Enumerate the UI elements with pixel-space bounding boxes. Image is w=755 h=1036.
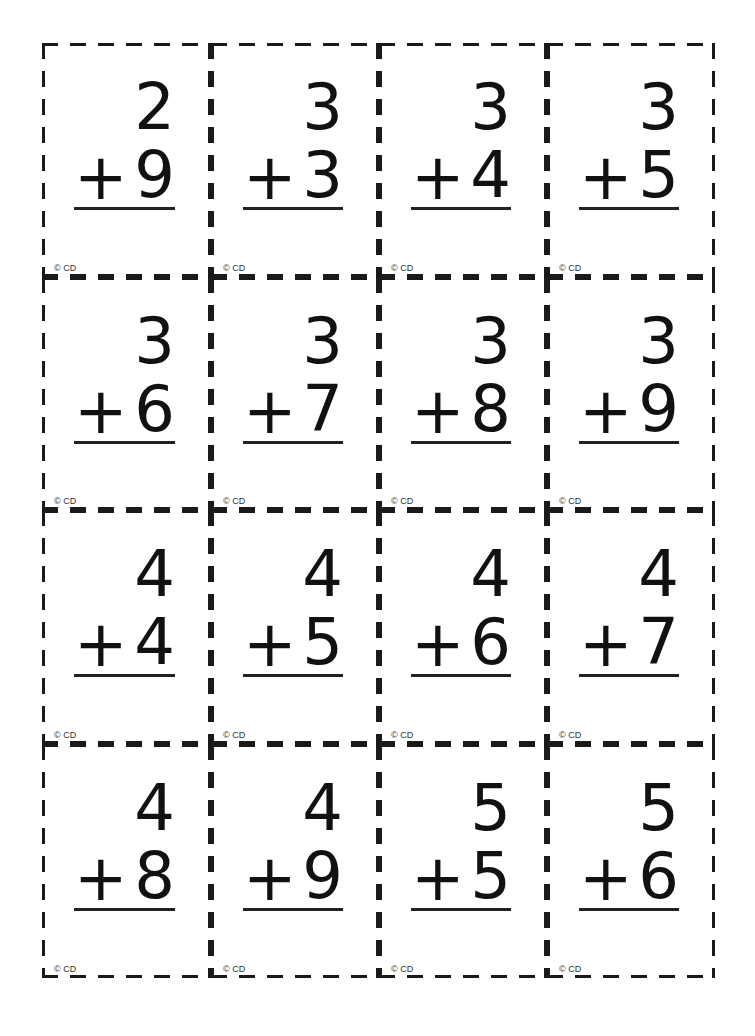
plus-sign: +: [243, 612, 297, 676]
sum-line: [243, 674, 343, 677]
addend-row: +8: [74, 844, 175, 910]
top-number: 4: [134, 776, 175, 840]
copyright-label: © CD: [391, 496, 413, 506]
copyright-label: © CD: [54, 730, 76, 740]
plus-sign: +: [579, 612, 633, 676]
addend-row: +6: [411, 610, 511, 676]
bottom-number: 8: [470, 377, 511, 441]
flashcard: 3+6© CD: [42, 277, 211, 510]
top-number: 3: [302, 75, 343, 139]
sum-line: [243, 908, 343, 911]
plus-sign: +: [74, 846, 128, 910]
flashcard: 4+4© CD: [42, 510, 211, 744]
top-number: 5: [638, 776, 679, 840]
copyright-label: © CD: [223, 263, 245, 273]
flashcard: 3+7© CD: [211, 277, 379, 510]
top-number: 3: [134, 309, 175, 373]
sum-line: [411, 207, 511, 210]
bottom-number: 5: [638, 143, 679, 207]
bottom-number: 5: [470, 844, 511, 908]
plus-sign: +: [411, 145, 465, 209]
addend-row: +4: [74, 610, 175, 676]
copyright-label: © CD: [391, 964, 413, 974]
plus-sign: +: [411, 846, 465, 910]
bottom-number: 3: [302, 143, 343, 207]
addend-row: +7: [243, 377, 343, 443]
flashcard: 3+9© CD: [547, 277, 715, 510]
bottom-number: 9: [638, 377, 679, 441]
top-number: 4: [470, 542, 511, 606]
copyright-label: © CD: [559, 964, 581, 974]
sum-line: [411, 441, 511, 444]
sum-line: [579, 207, 679, 210]
addend-row: +9: [74, 143, 175, 209]
addend-row: +7: [579, 610, 679, 676]
sum-line: [579, 674, 679, 677]
sum-line: [411, 674, 511, 677]
copyright-label: © CD: [223, 964, 245, 974]
bottom-number: 4: [470, 143, 511, 207]
bottom-number: 6: [638, 844, 679, 908]
copyright-label: © CD: [391, 263, 413, 273]
copyright-label: © CD: [54, 964, 76, 974]
copyright-label: © CD: [54, 263, 76, 273]
sum-line: [74, 674, 175, 677]
sum-line: [74, 441, 175, 444]
plus-sign: +: [243, 379, 297, 443]
flashcard: 3+5© CD: [547, 43, 715, 277]
sum-line: [243, 207, 343, 210]
addend-row: +3: [243, 143, 343, 209]
bottom-number: 6: [470, 610, 511, 674]
top-number: 4: [134, 542, 175, 606]
sum-line: [243, 441, 343, 444]
addend-row: +8: [411, 377, 511, 443]
flashcard: 4+7© CD: [547, 510, 715, 744]
bottom-number: 7: [638, 610, 679, 674]
copyright-label: © CD: [223, 496, 245, 506]
sum-line: [579, 441, 679, 444]
plus-sign: +: [74, 612, 128, 676]
bottom-number: 8: [134, 844, 175, 908]
addend-row: +5: [411, 844, 511, 910]
flashcard: 4+6© CD: [379, 510, 547, 744]
top-number: 4: [638, 542, 679, 606]
plus-sign: +: [579, 379, 633, 443]
flashcard: 3+4© CD: [379, 43, 547, 277]
addend-row: +4: [411, 143, 511, 209]
copyright-label: © CD: [54, 496, 76, 506]
copyright-label: © CD: [223, 730, 245, 740]
addend-row: +9: [243, 844, 343, 910]
copyright-label: © CD: [391, 730, 413, 740]
top-number: 3: [638, 309, 679, 373]
plus-sign: +: [243, 145, 297, 209]
flashcard: 2+9© CD: [42, 43, 211, 277]
flashcard: 4+8© CD: [42, 744, 211, 978]
copyright-label: © CD: [559, 263, 581, 273]
plus-sign: +: [579, 145, 633, 209]
top-number: 3: [470, 309, 511, 373]
top-number: 3: [302, 309, 343, 373]
top-number: 3: [638, 75, 679, 139]
addend-row: +9: [579, 377, 679, 443]
bottom-number: 9: [134, 143, 175, 207]
bottom-number: 4: [134, 610, 175, 674]
bottom-number: 9: [302, 844, 343, 908]
top-number: 4: [302, 776, 343, 840]
copyright-label: © CD: [559, 496, 581, 506]
plus-sign: +: [74, 145, 128, 209]
flashcard: 3+3© CD: [211, 43, 379, 277]
addend-row: +6: [74, 377, 175, 443]
addend-row: +5: [579, 143, 679, 209]
flashcard: 4+5© CD: [211, 510, 379, 744]
bottom-number: 5: [302, 610, 343, 674]
bottom-number: 7: [302, 377, 343, 441]
bottom-number: 6: [134, 377, 175, 441]
top-number: 5: [470, 776, 511, 840]
top-number: 4: [302, 542, 343, 606]
flashcard: 3+8© CD: [379, 277, 547, 510]
plus-sign: +: [74, 379, 128, 443]
plus-sign: +: [411, 379, 465, 443]
top-number: 2: [134, 75, 175, 139]
addend-row: +6: [579, 844, 679, 910]
flashcard: 4+9© CD: [211, 744, 379, 978]
